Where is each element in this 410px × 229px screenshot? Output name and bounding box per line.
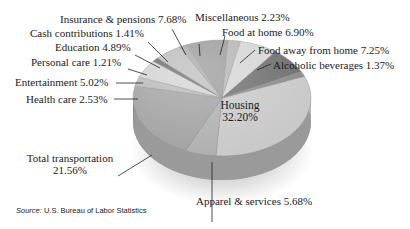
label-entertainment: Entertainment 5.02%: [15, 76, 108, 88]
label-cash: Cash contributions 1.41%: [30, 27, 144, 39]
label-education: Education 4.89%: [55, 41, 131, 53]
label-transport: Total transportation 21.56%: [22, 152, 118, 176]
label-food-away: Food away from home 7.25%: [258, 44, 389, 56]
label-misc: Miscellaneous 2.23%: [195, 11, 290, 23]
label-food-home: Food at home 6.90%: [222, 26, 314, 38]
label-transport-pct: 21.56%: [22, 164, 118, 176]
label-transport-name: Total transportation: [22, 152, 118, 164]
label-personal-care: Personal care 1.21%: [31, 56, 121, 68]
label-apparel: Apparel & services 5.68%: [196, 195, 312, 207]
label-health-care: Health care 2.53%: [26, 93, 108, 105]
label-housing-pct: 32.20%: [210, 111, 270, 123]
source-text: U.S. Bureau of Labor Statistics: [42, 206, 147, 215]
source-prefix: Source:: [16, 206, 42, 215]
source-note: Source: U.S. Bureau of Labor Statistics: [16, 206, 147, 215]
label-alcohol: Alcoholic beverages 1.37%: [273, 59, 394, 71]
label-housing: Housing 32.20%: [210, 99, 270, 123]
label-housing-name: Housing: [210, 99, 270, 111]
pie-gloss: [133, 40, 311, 156]
label-insurance: Insurance & pensions 7.68%: [60, 13, 186, 25]
